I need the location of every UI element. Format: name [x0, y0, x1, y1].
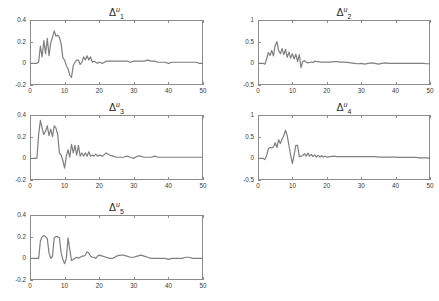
x-tick-label: 10 [61, 283, 68, 289]
x-tick-label: 40 [165, 283, 172, 289]
figure-canvas: Δu10.40.20-0.201020304050 Δu210.50-0.501… [0, 0, 439, 301]
x-tick-mark [65, 215, 66, 218]
x-tick-label: 30 [130, 283, 137, 289]
y-tick-label: 0.2 [0, 234, 26, 240]
plot-axes-frame [30, 215, 203, 280]
y-tick-mark [30, 237, 33, 238]
x-tick-mark [203, 277, 204, 280]
x-tick-label: 50 [199, 283, 206, 289]
x-tick-mark [65, 277, 66, 280]
y-tick-mark [30, 280, 33, 281]
x-tick-label: 20 [96, 283, 103, 289]
x-tick-mark [99, 215, 100, 218]
x-tick-mark [30, 277, 31, 280]
x-tick-mark [134, 277, 135, 280]
x-tick-mark [30, 215, 31, 218]
y-tick-mark [30, 258, 33, 259]
y-tick-label: -0.2 [0, 277, 26, 283]
y-tick-label: 0.4 [0, 212, 26, 218]
title-subscript: 5 [120, 208, 124, 215]
subplot-panel: Δu50.40.20-0.201020304050 [0, 0, 439, 301]
x-tick-mark [134, 215, 135, 218]
title-superscript: u [116, 201, 120, 208]
x-tick-mark [168, 215, 169, 218]
x-tick-mark [203, 215, 204, 218]
subplot-title: Δu5 [30, 201, 203, 215]
x-tick-label: 0 [28, 283, 32, 289]
y-tick-label: 0 [0, 255, 26, 261]
x-tick-mark [168, 277, 169, 280]
x-tick-mark [99, 277, 100, 280]
